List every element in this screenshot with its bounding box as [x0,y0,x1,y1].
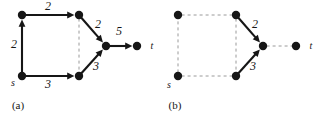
edge-weight-a-e2: 2 [45,0,51,12]
node-b-center [259,42,267,50]
edge-weight-a-e5: 3 [93,60,99,72]
arrowhead-a-e3 [67,73,74,80]
edge-weight-b-e4: 2 [252,18,258,30]
node-a-sink [133,42,141,50]
edge-weight-b-e5: 3 [250,60,256,72]
node-b-top-mid [232,11,240,19]
node-b-bottom-left [174,72,182,80]
node-label-a-sink: t [151,41,154,51]
node-label-b-sink: t [310,41,313,51]
edge-weight-a-e3: 3 [45,78,51,90]
graph-panel-a [18,11,141,80]
node-a-top-mid [75,11,83,19]
arrowhead-a-e2 [67,12,74,19]
node-b-bottom-mid [232,72,240,80]
panel-caption-a: (a) [12,100,24,111]
node-b-sink [292,42,300,50]
node-b-top-left [174,11,182,19]
node-label-a-bottom-left: s [11,78,15,88]
edge-weight-a-e1: 2 [11,38,17,50]
node-label-b-bottom-left: s [167,80,171,90]
arrowhead-a-e1 [19,20,26,27]
flow-network-figure: 223235st(a)23st(b) [0,0,324,118]
graph-panel-b [174,11,300,80]
panel-caption-b: (b) [169,100,182,111]
edge-weight-a-e4: 2 [95,18,101,30]
node-a-bottom-mid [75,72,83,80]
node-a-top-left [18,11,26,19]
figure-canvas [0,0,324,118]
node-a-center [102,42,110,50]
edge-weight-a-e6: 5 [116,25,122,37]
arrowhead-a-e6 [125,43,132,50]
node-a-bottom-left [18,72,26,80]
